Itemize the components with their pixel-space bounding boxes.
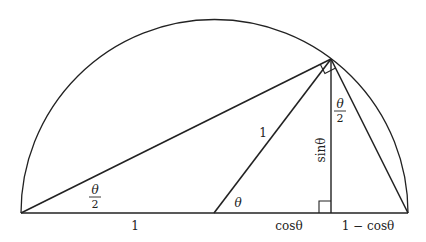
half-angle-left-label: θ 2: [89, 183, 101, 211]
svg-text:2: 2: [337, 112, 344, 125]
half-angle-top-label: θ 2: [334, 97, 346, 125]
svg-text:θ: θ: [91, 183, 99, 197]
cos-label: cosθ: [275, 219, 302, 233]
right-angle-marker-foot: [319, 201, 331, 213]
radius-line: [214, 59, 331, 213]
left-chord: [21, 59, 331, 213]
semicircle-diagram: θ 2 1 1 θ cosθ 1 − cosθ sinθ θ 2: [0, 0, 426, 242]
theta-label: θ: [234, 196, 242, 210]
one-minus-cos-label: 1 − cosθ: [342, 219, 395, 233]
svg-text:θ: θ: [336, 97, 344, 111]
svg-text:2: 2: [92, 198, 99, 211]
right-chord: [331, 59, 408, 213]
sin-label: sinθ: [314, 138, 328, 163]
right-angle-marker-top: [320, 64, 335, 73]
base-length-label: 1: [131, 219, 139, 233]
radius-length-label: 1: [259, 126, 267, 140]
